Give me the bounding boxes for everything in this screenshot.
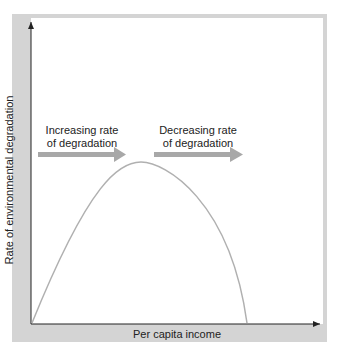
annotation-decreasing: Decreasing rate of degradation <box>150 124 246 150</box>
annotation-decreasing-line1: Decreasing rate <box>150 124 246 137</box>
plot-svg <box>0 0 337 355</box>
kuznets-curve <box>32 162 247 323</box>
annotation-decreasing-line2: of degradation <box>150 137 246 150</box>
x-axis-label: Per capita income <box>31 328 323 340</box>
y-axis-label: Rate of environmental degradation <box>3 75 15 285</box>
annotation-increasing-line1: Increasing rate <box>34 124 130 137</box>
annotation-increasing-line2: of degradation <box>34 137 130 150</box>
annotation-increasing: Increasing rate of degradation <box>34 124 130 150</box>
